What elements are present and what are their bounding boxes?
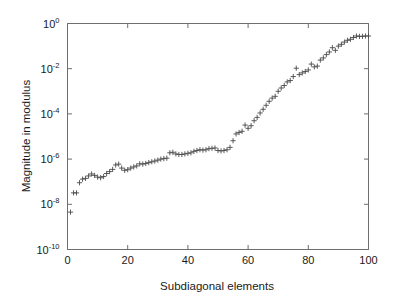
x-tick-label: 80 bbox=[302, 254, 314, 266]
scatter-plot: 020406080100 10-1010-810-610-410-2100 Su… bbox=[0, 0, 397, 296]
figure-container: 020406080100 10-1010-810-610-410-2100 Su… bbox=[0, 0, 397, 296]
x-axis-title: Subdiagonal elements bbox=[160, 280, 274, 292]
x-tick-label: 40 bbox=[182, 254, 194, 266]
x-tick-label: 60 bbox=[242, 254, 254, 266]
x-tick-label: 20 bbox=[122, 254, 134, 266]
figure-background bbox=[0, 0, 397, 296]
x-tick-label: 100 bbox=[359, 254, 377, 266]
y-axis-title: Magnitude in modulus bbox=[20, 79, 32, 192]
x-tick-label: 0 bbox=[64, 254, 70, 266]
